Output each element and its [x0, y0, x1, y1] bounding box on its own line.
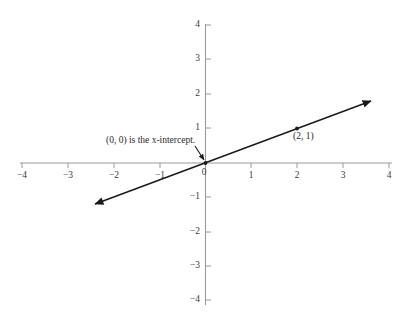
coordinate-plane-svg — [0, 0, 403, 322]
annotation-arrow — [195, 146, 204, 160]
y-tick-label-2: 2 — [195, 89, 200, 99]
y-tick-label-1: 1 — [195, 123, 200, 133]
y-tick-label--3: −3 — [190, 261, 200, 271]
x-tick-label-2: 2 — [295, 171, 300, 181]
x-tick-label--3: −3 — [63, 171, 73, 181]
plotted-line — [95, 101, 371, 204]
x-tick-label-3: 3 — [341, 171, 346, 181]
x-intercept-annotation-label: (0, 0) is the x-intercept. — [106, 136, 195, 146]
y-tick-label-4: 4 — [195, 20, 200, 30]
graph-figure: −4 −3 −2 −1 1 2 3 4 4 3 2 1 −1 −2 −3 −4 … — [0, 0, 403, 322]
x-tick-label--4: −4 — [17, 171, 27, 181]
x-tick-label--1: −1 — [155, 171, 165, 181]
y-tick-label--2: −2 — [190, 227, 200, 237]
data-point-label-2-1: (2, 1) — [293, 132, 314, 142]
x-tick-label-1: 1 — [249, 171, 254, 181]
origin-label: 0 — [202, 168, 207, 178]
y-tick-label--4: −4 — [190, 295, 200, 305]
y-tick-label--1: −1 — [190, 192, 200, 202]
data-point-origin — [204, 161, 208, 165]
y-tick-label-3: 3 — [195, 54, 200, 64]
x-tick-label-4: 4 — [387, 171, 392, 181]
x-tick-label--2: −2 — [109, 171, 119, 181]
data-point-2-1 — [295, 127, 299, 131]
